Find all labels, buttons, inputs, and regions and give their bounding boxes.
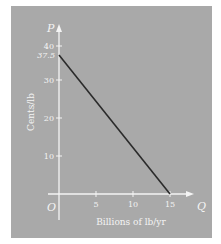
origin-label: O: [47, 201, 56, 214]
x-axis-arrow-icon: [186, 191, 194, 197]
y-axis-title: Cents/lb: [26, 93, 36, 131]
x-tick-label-15: 15: [165, 200, 175, 209]
y-axis-arrow-icon: [56, 24, 62, 32]
y-axis-symbol: P: [46, 22, 55, 35]
x-tick-label-10: 10: [128, 200, 138, 209]
x-axis-symbol: Q: [197, 200, 206, 213]
y-tick-label-20: 20: [44, 114, 54, 123]
demand-line: [59, 55, 170, 194]
y-intercept-label: 37.5: [37, 51, 55, 60]
x-tick-label-5: 5: [93, 200, 98, 209]
x-axis-title: Billions of lb/yr: [96, 217, 166, 227]
y-tick-label-40: 40: [44, 42, 54, 51]
demand-chart: 5 10 15 10 20 30 40 37.5 O Q P Billions …: [0, 0, 221, 244]
y-tick-label-10: 10: [44, 152, 54, 161]
y-tick-label-30: 30: [44, 76, 54, 85]
